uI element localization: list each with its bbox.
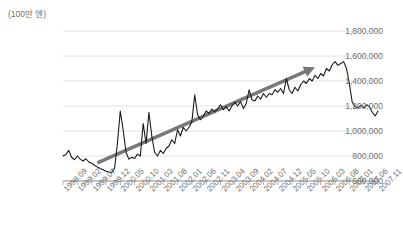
y-axis-tick-label: 800,000 xyxy=(327,151,383,161)
y-axis-tick-label: 1,400,000 xyxy=(327,76,383,86)
y-axis-tick-label: 1,800,000 xyxy=(327,26,383,36)
y-axis-tick-label: 1,600,000 xyxy=(327,51,383,61)
y-axis-tick-label: 1,200,000 xyxy=(327,101,383,111)
y-axis-tick-label: 1,000,000 xyxy=(327,126,383,136)
